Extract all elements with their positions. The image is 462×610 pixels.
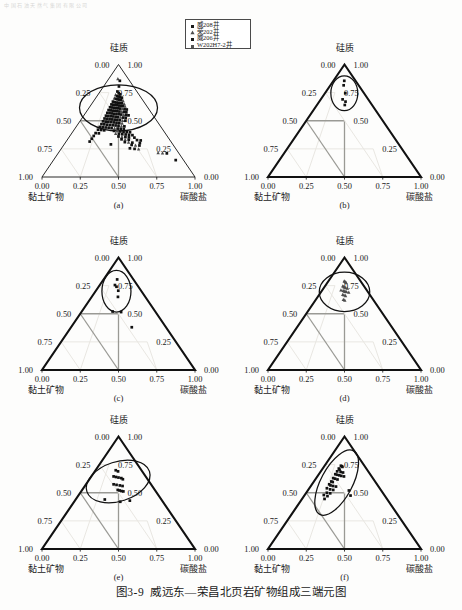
svg-text:0.75: 0.75 bbox=[37, 145, 52, 154]
svg-text:0.50: 0.50 bbox=[283, 489, 298, 498]
svg-text:0.75: 0.75 bbox=[375, 554, 390, 563]
svg-text:0.50: 0.50 bbox=[337, 375, 352, 384]
svg-text:0.00: 0.00 bbox=[35, 375, 50, 384]
svg-text:0.25: 0.25 bbox=[76, 461, 91, 470]
svg-text:0.25: 0.25 bbox=[302, 282, 317, 291]
svg-text:硅质: 硅质 bbox=[110, 42, 128, 53]
svg-text:0.25: 0.25 bbox=[156, 338, 171, 347]
svg-text:黏土矿物: 黏土矿物 bbox=[28, 191, 64, 202]
svg-text:0.75: 0.75 bbox=[37, 338, 52, 347]
svg-text:黏土矿物: 黏土矿物 bbox=[254, 563, 290, 574]
svg-text:0.25: 0.25 bbox=[73, 182, 88, 191]
svg-text:0.75: 0.75 bbox=[263, 517, 278, 526]
svg-text:0.25: 0.25 bbox=[302, 89, 317, 98]
svg-text:0.75: 0.75 bbox=[344, 461, 359, 470]
figure-caption: 图3-9威远东—荣昌北页岩矿物组成三端元图 bbox=[0, 583, 462, 599]
svg-text:0.50: 0.50 bbox=[337, 182, 352, 191]
svg-text:1.00: 1.00 bbox=[354, 254, 369, 263]
svg-text:0.50: 0.50 bbox=[111, 554, 126, 563]
svg-text:0.50: 0.50 bbox=[283, 310, 298, 319]
svg-text:0.25: 0.25 bbox=[382, 145, 397, 154]
svg-text:0.00: 0.00 bbox=[261, 554, 276, 563]
svg-text:硅质: 硅质 bbox=[336, 414, 354, 425]
svg-text:0.50: 0.50 bbox=[354, 310, 369, 319]
svg-text:0.00: 0.00 bbox=[95, 61, 110, 70]
svg-text:0.50: 0.50 bbox=[57, 489, 72, 498]
ternary-panel-b: 0.000.250.500.751.000.000.250.500.751.00… bbox=[228, 20, 459, 213]
svg-text:0.75: 0.75 bbox=[263, 338, 278, 347]
figure-title: 威远东—荣昌北页岩矿物组成三端元图 bbox=[150, 586, 346, 598]
svg-text:0.75: 0.75 bbox=[118, 461, 133, 470]
svg-text:1.00: 1.00 bbox=[128, 254, 143, 263]
svg-text:0.25: 0.25 bbox=[382, 517, 397, 526]
svg-text:0.75: 0.75 bbox=[149, 182, 164, 191]
ternary-panel-f: 0.000.250.500.751.000.000.250.500.751.00… bbox=[228, 392, 459, 585]
ternary-panel-c: 0.000.250.500.751.000.000.250.500.751.00… bbox=[2, 213, 233, 406]
svg-text:1.00: 1.00 bbox=[414, 182, 429, 191]
svg-text:硅质: 硅质 bbox=[336, 42, 354, 53]
svg-text:1.00: 1.00 bbox=[414, 375, 429, 384]
svg-text:1.00: 1.00 bbox=[128, 433, 143, 442]
svg-text:0.25: 0.25 bbox=[299, 375, 314, 384]
svg-text:0.50: 0.50 bbox=[283, 117, 298, 126]
svg-text:0.00: 0.00 bbox=[35, 182, 50, 191]
svg-text:1.00: 1.00 bbox=[18, 545, 33, 554]
svg-text:0.00: 0.00 bbox=[35, 554, 50, 563]
svg-text:(f): (f) bbox=[340, 572, 349, 582]
svg-text:0.00: 0.00 bbox=[430, 545, 445, 554]
svg-text:0.50: 0.50 bbox=[354, 117, 369, 126]
svg-text:碳酸盐: 碳酸盐 bbox=[180, 563, 207, 574]
svg-text:0.50: 0.50 bbox=[128, 489, 143, 498]
svg-text:0.00: 0.00 bbox=[430, 366, 445, 375]
svg-text:(a): (a) bbox=[114, 200, 124, 210]
svg-text:1.00: 1.00 bbox=[18, 173, 33, 182]
svg-text:0.00: 0.00 bbox=[321, 433, 336, 442]
svg-text:1.00: 1.00 bbox=[244, 173, 259, 182]
svg-text:硅质: 硅质 bbox=[336, 235, 354, 246]
svg-text:1.00: 1.00 bbox=[244, 366, 259, 375]
svg-text:0.25: 0.25 bbox=[73, 375, 88, 384]
svg-text:1.00: 1.00 bbox=[188, 182, 203, 191]
svg-text:1.00: 1.00 bbox=[128, 61, 143, 70]
svg-text:黏土矿物: 黏土矿物 bbox=[254, 191, 290, 202]
svg-text:0.00: 0.00 bbox=[204, 173, 219, 182]
svg-text:1.00: 1.00 bbox=[188, 375, 203, 384]
ternary-panel-a: 0.000.250.500.751.000.000.250.500.751.00… bbox=[2, 20, 233, 213]
ternary-panel-e: 0.000.250.500.751.000.000.250.500.751.00… bbox=[2, 392, 233, 585]
svg-text:0.25: 0.25 bbox=[156, 517, 171, 526]
svg-text:(e): (e) bbox=[114, 572, 124, 582]
svg-text:0.75: 0.75 bbox=[375, 375, 390, 384]
svg-text:0.50: 0.50 bbox=[337, 554, 352, 563]
svg-text:0.50: 0.50 bbox=[57, 117, 72, 126]
svg-text:0.00: 0.00 bbox=[321, 61, 336, 70]
svg-text:1.00: 1.00 bbox=[188, 554, 203, 563]
svg-text:0.50: 0.50 bbox=[111, 375, 126, 384]
svg-text:0.25: 0.25 bbox=[76, 282, 91, 291]
svg-text:黏土矿物: 黏土矿物 bbox=[28, 563, 64, 574]
svg-text:1.00: 1.00 bbox=[414, 554, 429, 563]
svg-text:0.25: 0.25 bbox=[382, 338, 397, 347]
svg-text:硅质: 硅质 bbox=[110, 414, 128, 425]
svg-text:0.00: 0.00 bbox=[95, 433, 110, 442]
svg-text:(b): (b) bbox=[339, 200, 349, 210]
svg-text:碳酸盐: 碳酸盐 bbox=[180, 191, 207, 202]
svg-text:0.50: 0.50 bbox=[128, 310, 143, 319]
svg-text:0.50: 0.50 bbox=[354, 489, 369, 498]
svg-text:0.75: 0.75 bbox=[375, 182, 390, 191]
svg-text:0.00: 0.00 bbox=[261, 375, 276, 384]
svg-text:0.50: 0.50 bbox=[111, 182, 126, 191]
svg-text:0.50: 0.50 bbox=[57, 310, 72, 319]
svg-text:0.75: 0.75 bbox=[149, 375, 164, 384]
svg-text:0.75: 0.75 bbox=[263, 145, 278, 154]
ternary-panel-d: 0.000.250.500.751.000.000.250.500.751.00… bbox=[228, 213, 459, 406]
svg-text:1.00: 1.00 bbox=[18, 366, 33, 375]
svg-text:硅质: 硅质 bbox=[110, 235, 128, 246]
svg-text:0.00: 0.00 bbox=[204, 545, 219, 554]
svg-text:1.00: 1.00 bbox=[354, 433, 369, 442]
svg-text:0.75: 0.75 bbox=[37, 517, 52, 526]
svg-text:1.00: 1.00 bbox=[354, 61, 369, 70]
svg-text:0.25: 0.25 bbox=[299, 554, 314, 563]
svg-text:0.25: 0.25 bbox=[73, 554, 88, 563]
svg-text:0.00: 0.00 bbox=[261, 182, 276, 191]
svg-text:0.00: 0.00 bbox=[95, 254, 110, 263]
